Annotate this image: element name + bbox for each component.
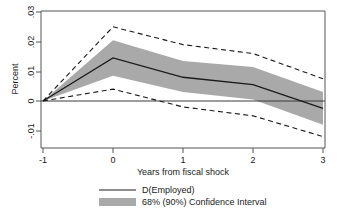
legend-item-label-1: 68% (90%) Confidence Interval xyxy=(142,197,267,207)
confidence-interval-line-chart: .03 .02 .01 0 -.01 Percent -1 0 1 2 3 Ye… xyxy=(0,0,339,216)
y-tick-label-4: -.01 xyxy=(26,123,36,139)
x-tick-label-1: 0 xyxy=(110,155,115,165)
x-tick-label-0: -1 xyxy=(39,155,47,165)
x-tick-label-2: 1 xyxy=(180,155,185,165)
y-axis-label: Percent xyxy=(10,63,20,95)
y-tick-label-3: 0 xyxy=(26,98,36,103)
chart-page: .03 .02 .01 0 -.01 Percent -1 0 1 2 3 Ye… xyxy=(0,0,339,216)
y-tick-label-2: .01 xyxy=(26,66,36,79)
y-tick-label-0: .03 xyxy=(26,6,36,19)
y-tick-label-1: .02 xyxy=(26,36,36,49)
x-tick-label-4: 3 xyxy=(320,155,325,165)
x-axis-label: Years from fiscal shock xyxy=(137,167,230,177)
x-tick-label-3: 2 xyxy=(250,155,255,165)
legend-swatch-marker xyxy=(99,198,136,206)
legend-item-label-0: D(Employed) xyxy=(142,185,195,195)
